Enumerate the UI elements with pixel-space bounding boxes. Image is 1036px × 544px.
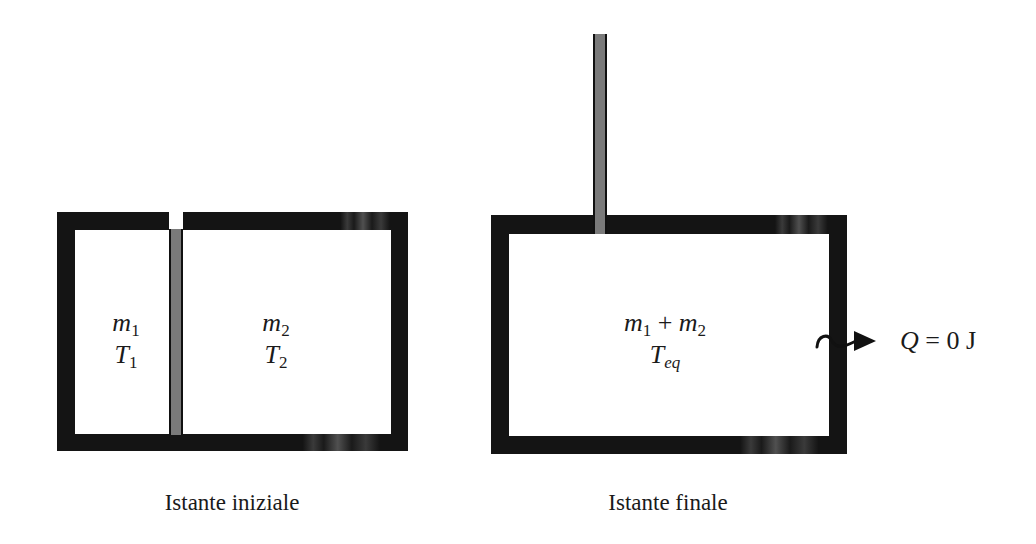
initial-bottom-wall (57, 434, 408, 451)
initial-caption: Istante iniziale (120, 490, 344, 516)
heat-equation: Q = 0 J (900, 326, 976, 356)
initial-right-wall (391, 212, 408, 451)
plus-sign: + (658, 308, 673, 337)
temp-subscript: eq (664, 353, 680, 372)
mass-a-symbol: m (624, 308, 643, 337)
partition (169, 229, 183, 435)
final-chamber-temp: Teq (625, 340, 705, 370)
temp-symbol: T (265, 340, 279, 369)
final-chamber-mass: m1 + m2 (590, 308, 740, 338)
mass-symbol: m (262, 308, 281, 337)
final-caption: Istante finale (570, 490, 766, 516)
temp-subscript: 2 (279, 353, 288, 372)
equals-sign: = (925, 326, 940, 355)
withdrawn-partition (593, 34, 607, 234)
heat-symbol: Q (900, 326, 919, 355)
final-bottom-wall (491, 436, 847, 454)
left-chamber-mass: m1 (96, 308, 156, 338)
temp-symbol: T (650, 340, 664, 369)
mass-subscript: 1 (131, 321, 140, 340)
mass-b-subscript: 2 (698, 321, 707, 340)
final-top-wall-right (607, 215, 847, 234)
heat-value: 0 (946, 326, 959, 355)
heat-unit: J (966, 326, 976, 355)
right-chamber-temp: T2 (246, 340, 306, 370)
mass-b-symbol: m (679, 308, 698, 337)
mass-subscript: 2 (281, 321, 290, 340)
temp-symbol: T (115, 340, 129, 369)
left-chamber-temp: T1 (96, 340, 156, 370)
temp-subscript: 1 (129, 353, 138, 372)
final-left-wall (491, 215, 509, 454)
mass-symbol: m (112, 308, 131, 337)
initial-top-wall-right (183, 212, 408, 230)
right-chamber-mass: m2 (246, 308, 306, 338)
mass-a-subscript: 1 (643, 321, 652, 340)
initial-left-wall (57, 212, 75, 451)
heat-flow-arrow-icon (812, 325, 882, 357)
